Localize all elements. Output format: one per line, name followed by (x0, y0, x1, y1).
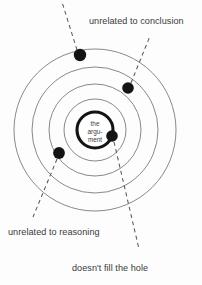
leader-line-hole (114, 142, 139, 249)
diagram-container: the argu- ment unrelated to conclusion u… (0, 0, 202, 285)
core-label-line-2: argu- (88, 128, 103, 136)
dot-lower-left-icon (53, 147, 65, 159)
label-doesnt-fill-the-hole: doesn't fill the hole (72, 263, 148, 273)
core-label-line-3: ment (88, 136, 102, 143)
core-label-line-1: the (91, 120, 100, 127)
label-unrelated-to-reasoning: unrelated to reasoning (8, 227, 100, 237)
leader-line-top (62, 2, 77, 50)
dot-top-outer-icon (74, 49, 86, 61)
argument-target-diagram: the argu- ment unrelated to conclusion u… (0, 0, 202, 285)
label-unrelated-to-conclusion: unrelated to conclusion (89, 16, 184, 26)
leader-line-conclusion (131, 36, 150, 83)
dot-upper-right-icon (122, 82, 134, 94)
dot-on-core-icon (106, 130, 118, 142)
